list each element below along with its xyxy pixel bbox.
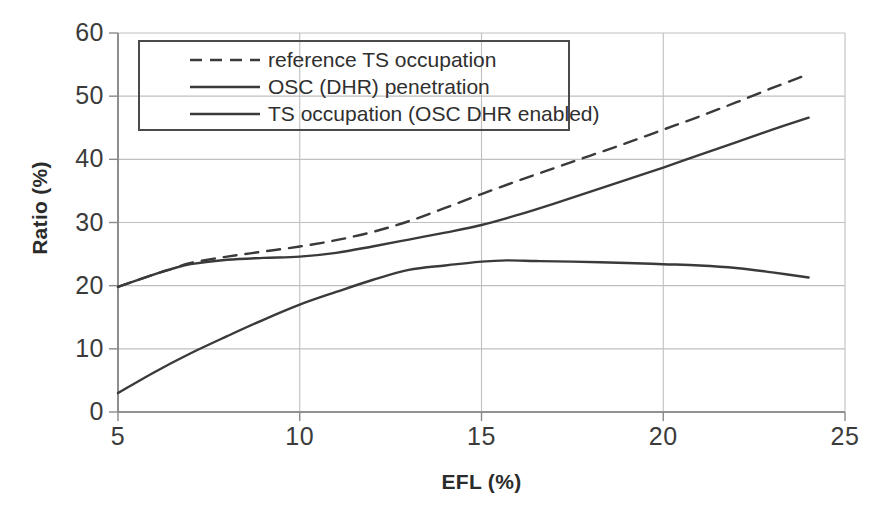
y-tick-label: 50 — [48, 83, 104, 108]
legend-label: TS occupation (OSC DHR enabled) — [268, 103, 599, 124]
legend-label: reference TS occupation — [268, 49, 496, 70]
y-tick-label: 40 — [48, 146, 104, 171]
x-tick-label: 5 — [86, 424, 150, 449]
y-tick-label: 0 — [48, 399, 104, 424]
x-tick-label: 20 — [631, 424, 695, 449]
legend-item[interactable]: TS occupation (OSC DHR enabled) — [140, 100, 568, 127]
y-axis-title: Ratio (%) — [28, 128, 52, 288]
chart-legend: reference TS occupationOSC (DHR) penetra… — [138, 40, 570, 131]
y-tick-label: 10 — [48, 336, 104, 361]
series-line-2 — [118, 260, 809, 393]
legend-label: OSC (DHR) penetration — [268, 76, 490, 97]
chart-container: 0102030405060 510152025 Ratio (%) EFL (%… — [0, 0, 894, 517]
legend-item[interactable]: OSC (DHR) penetration — [140, 73, 568, 100]
dashed-line-icon — [188, 53, 262, 67]
y-tick-label: 30 — [48, 210, 104, 235]
solid-line-icon — [188, 107, 262, 121]
y-tick-label: 20 — [48, 273, 104, 298]
y-tick-label: 60 — [48, 20, 104, 45]
x-axis-title: EFL (%) — [118, 470, 845, 494]
x-tick-label: 10 — [268, 424, 332, 449]
x-tick-label: 15 — [450, 424, 514, 449]
x-axis-tick-labels: 510152025 — [0, 424, 894, 456]
solid-line-icon — [188, 80, 262, 94]
legend-item[interactable]: reference TS occupation — [140, 46, 568, 73]
x-tick-label: 25 — [813, 424, 877, 449]
